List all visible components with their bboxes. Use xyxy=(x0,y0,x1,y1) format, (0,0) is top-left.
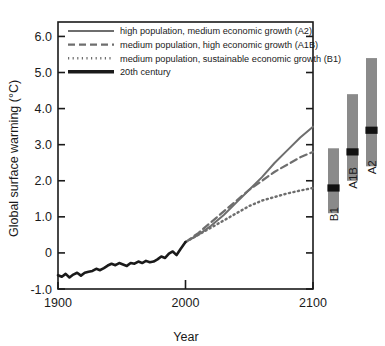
range-bar-label-a1b: A1B xyxy=(347,167,359,189)
y-tick-label: 0 xyxy=(45,246,52,260)
range-bar-b1 xyxy=(328,148,339,213)
y-tick-label: 6.0 xyxy=(35,30,52,44)
legend-label-3: 20th century xyxy=(120,67,171,77)
y-tick-label: 3.0 xyxy=(35,138,52,152)
x-axis-title: Year xyxy=(173,330,198,344)
y-tick-label: 1.0 xyxy=(35,210,52,224)
legend-label-1: medium population, high economic growth … xyxy=(120,40,318,50)
chart-svg: Global surface warming (°C) -1.001.02.03… xyxy=(0,0,385,346)
range-bar-label-b1: B1 xyxy=(328,207,340,221)
best-estimate-marker-a2 xyxy=(365,127,377,134)
best-estimate-marker-a1b xyxy=(346,148,358,155)
y-tick-label: 5.0 xyxy=(35,66,52,80)
range-bar-a2 xyxy=(366,58,377,166)
data-series-layer xyxy=(58,127,313,278)
y-axis-ticks: -1.001.02.03.04.05.06.0 xyxy=(30,30,313,297)
climate-projection-figure: Global surface warming (°C) -1.001.02.03… xyxy=(0,0,385,346)
legend-label-2: medium population, sustainable economic … xyxy=(120,54,341,64)
y-tick-label: 2.0 xyxy=(35,174,52,188)
series-line-20c xyxy=(58,242,186,277)
series-line-a2 xyxy=(186,127,314,242)
y-axis-title: Global surface warming (°C) xyxy=(7,80,21,237)
best-estimate-marker-b1 xyxy=(327,184,339,191)
range-bar-label-a2: A2 xyxy=(366,160,378,174)
x-tick-label: 1900 xyxy=(44,296,72,310)
scenario-range-bars: B1A1BA2 xyxy=(327,58,378,221)
x-tick-label: 2100 xyxy=(299,296,327,310)
series-line-b1 xyxy=(186,188,314,242)
y-tick-label: -1.0 xyxy=(30,283,52,297)
y-tick-label: 4.0 xyxy=(35,102,52,116)
series-line-a1b xyxy=(186,152,314,242)
x-tick-label: 2000 xyxy=(172,296,200,310)
x-axis-ticks: 190020002100 xyxy=(44,280,327,310)
chart-legend: high population, medium economic growth … xyxy=(68,26,341,77)
legend-label-0: high population, medium economic growth … xyxy=(120,26,312,36)
